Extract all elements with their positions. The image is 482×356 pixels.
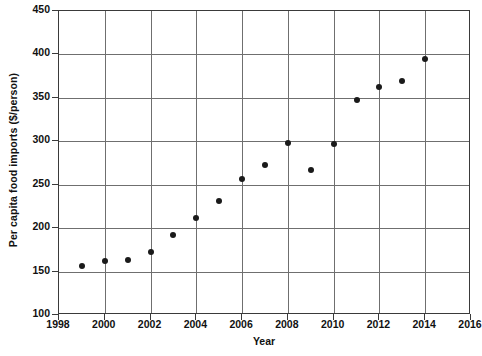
data-point [285, 140, 291, 146]
gridline-vertical [334, 11, 335, 313]
data-point [331, 141, 337, 147]
y-axis-tick-mark [52, 53, 58, 54]
gridline-horizontal [59, 228, 469, 229]
gridline-vertical [242, 11, 243, 313]
scatter-chart-figure: Per capita food imports ($/person) 10015… [0, 0, 482, 356]
data-point [262, 162, 268, 168]
y-axis-tick-label: 350 [4, 90, 50, 102]
y-axis-tick-mark [52, 271, 58, 272]
y-axis-tick-mark [52, 97, 58, 98]
x-axis-tick-mark [104, 314, 105, 320]
gridline-vertical [196, 11, 197, 313]
gridline-horizontal [59, 185, 469, 186]
data-point [239, 176, 245, 182]
y-axis-tick-mark [52, 227, 58, 228]
x-axis-tick-mark [58, 314, 59, 320]
data-point [399, 78, 405, 84]
x-axis-tick-mark [195, 314, 196, 320]
y-axis-tick-label: 300 [4, 133, 50, 145]
x-axis-tick-mark [333, 314, 334, 320]
y-axis-tick-label: 450 [4, 3, 50, 15]
gridline-horizontal [59, 54, 469, 55]
data-point [148, 249, 154, 255]
data-point [102, 258, 108, 264]
x-axis-tick-mark [150, 314, 151, 320]
data-point [170, 232, 176, 238]
data-point [193, 215, 199, 221]
y-axis-tick-label: 150 [4, 264, 50, 276]
y-axis-tick-label: 400 [4, 46, 50, 58]
data-point [354, 97, 360, 103]
gridline-horizontal [59, 98, 469, 99]
y-axis-tick-label: 250 [4, 177, 50, 189]
x-axis-tick-mark [241, 314, 242, 320]
x-axis-tick-mark [424, 314, 425, 320]
gridline-horizontal [59, 141, 469, 142]
x-axis-tick-label: 2016 [445, 318, 482, 330]
data-point [376, 84, 382, 90]
y-axis-tick-label: 200 [4, 220, 50, 232]
gridline-horizontal [59, 272, 469, 273]
x-axis-tick-mark [287, 314, 288, 320]
y-axis-tick-mark [52, 184, 58, 185]
x-axis-tick-mark [470, 314, 471, 320]
gridline-vertical [105, 11, 106, 313]
data-point [308, 167, 314, 173]
plot-area [58, 10, 470, 314]
data-point [79, 263, 85, 269]
y-axis-tick-mark [52, 10, 58, 11]
data-point [216, 198, 222, 204]
data-point [125, 257, 131, 263]
gridline-vertical [151, 11, 152, 313]
x-axis-label: Year [58, 335, 470, 347]
x-axis-tick-mark [378, 314, 379, 320]
gridline-vertical [379, 11, 380, 313]
y-axis-tick-mark [52, 140, 58, 141]
data-point [422, 56, 428, 62]
gridline-vertical [288, 11, 289, 313]
